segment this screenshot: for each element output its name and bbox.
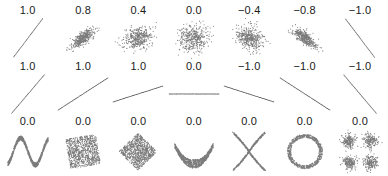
correlation-label: −1.0 <box>238 60 261 73</box>
scatter-plot-cloud-elliptical <box>280 17 330 59</box>
scatter-plot-line <box>1 73 55 115</box>
scatter-panel-r1-c6: −0.8 <box>277 4 332 59</box>
scatter-panel-r3-c4: 0.0 <box>166 115 221 175</box>
correlation-label: 0.8 <box>75 4 91 17</box>
data-points <box>232 132 266 171</box>
scatter-panel-r2-c1: 1.0 <box>0 60 55 115</box>
data-points <box>66 135 101 169</box>
panel-row-3: 0.00.00.00.00.00.00.0 <box>0 115 388 175</box>
scatter-plot-line <box>111 73 165 115</box>
scatter-plot-square-rotated-45 <box>114 128 162 175</box>
scatter-panel-r1-c4: 0.0 <box>166 4 221 59</box>
data-points <box>11 74 45 113</box>
correlation-label: −1.0 <box>349 60 372 73</box>
scatter-plot-cloud-circular <box>169 17 219 59</box>
panel-row-2: 1.01.01.00.0−1.0−1.0−1.0 <box>0 60 388 115</box>
correlation-label: 0.0 <box>297 115 313 128</box>
scatter-panel-r1-c1: 1.0 <box>0 4 55 59</box>
correlation-label: 1.0 <box>20 4 36 17</box>
scatter-panel-r2-c3: 1.0 <box>111 60 166 115</box>
data-points <box>287 24 322 52</box>
scatter-panel-r2-c6: −1.0 <box>277 60 332 115</box>
correlation-label: 1.0 <box>20 60 36 73</box>
correlation-label: 0.4 <box>131 4 147 17</box>
scatter-plot-line <box>278 73 332 115</box>
scatter-plot-crescent-u <box>170 128 218 175</box>
scatter-plot-line-negative-steep <box>335 17 385 59</box>
scatter-plot-line <box>333 73 387 115</box>
correlation-label: −0.4 <box>238 4 261 17</box>
scatter-plot-four-clusters <box>336 128 384 175</box>
correlation-label: 0.0 <box>186 60 202 73</box>
data-points <box>224 86 275 103</box>
data-points <box>7 135 49 167</box>
scatter-panel-r2-c7: −1.0 <box>332 60 387 115</box>
correlation-label: 0.0 <box>186 4 202 17</box>
scatter-panel-r1-c3: 0.4 <box>111 4 166 59</box>
correlation-label: −1.0 <box>349 4 372 17</box>
scatter-plot-line <box>56 73 110 115</box>
scatter-panel-r1-c7: −1.0 <box>332 4 387 59</box>
scatter-plot-cloud-elliptical <box>58 17 108 59</box>
data-points <box>168 93 219 94</box>
data-points <box>13 18 43 57</box>
scatter-plot-line <box>222 73 276 115</box>
scatter-panel-r2-c2: 1.0 <box>55 60 110 115</box>
scatter-plot-ring <box>281 128 329 175</box>
correlation-label: 0.0 <box>75 115 91 128</box>
correlation-label: 1.0 <box>75 60 91 73</box>
data-points <box>175 20 214 58</box>
scatter-plot-square-rotated-10 <box>59 128 107 175</box>
scatter-plot-line-positive-steep <box>3 17 53 59</box>
correlation-figure: 1.00.80.40.0−0.4−0.8−1.0 1.01.01.00.0−1.… <box>0 0 388 176</box>
scatter-panel-r3-c5: 0.0 <box>222 115 277 175</box>
scatter-panel-r3-c3: 0.0 <box>111 115 166 175</box>
scatter-plot-cloud-elliptical <box>224 17 274 59</box>
scatter-panel-r2-c4: 0.0 <box>166 60 221 115</box>
scatter-plot-sine-w <box>4 128 52 175</box>
data-points <box>279 77 330 110</box>
scatter-panel-r1-c5: −0.4 <box>222 4 277 59</box>
panel-row-1: 1.00.80.40.0−0.4−0.8−1.0 <box>0 4 388 59</box>
data-points <box>120 133 157 170</box>
scatter-plot-cross-x <box>225 128 273 175</box>
data-points <box>174 143 214 169</box>
scatter-panel-r3-c1: 0.0 <box>0 115 55 175</box>
data-points <box>115 22 157 54</box>
data-points <box>345 19 375 58</box>
scatter-panel-r2-c5: −1.0 <box>222 60 277 115</box>
data-points <box>339 129 383 173</box>
scatter-panel-r1-c2: 0.8 <box>55 4 110 59</box>
correlation-label: 0.0 <box>131 115 147 128</box>
correlation-label: 0.0 <box>241 115 257 128</box>
data-points <box>233 18 271 55</box>
data-points <box>343 74 376 113</box>
data-points <box>66 25 100 52</box>
data-points <box>113 86 164 103</box>
scatter-plot-cloud-elliptical <box>113 17 163 59</box>
correlation-label: 1.0 <box>131 60 147 73</box>
data-points <box>287 134 323 169</box>
scatter-panel-r3-c6: 0.0 <box>277 115 332 175</box>
correlation-label: 0.0 <box>20 115 36 128</box>
correlation-label: −1.0 <box>293 60 316 73</box>
scatter-panel-r3-c7: 0.0 <box>332 115 387 175</box>
data-points <box>58 77 109 110</box>
correlation-label: −0.8 <box>293 4 316 17</box>
scatter-plot-line-flat <box>167 73 221 115</box>
correlation-label: 0.0 <box>352 115 368 128</box>
correlation-label: 0.0 <box>186 115 202 128</box>
scatter-panel-r3-c2: 0.0 <box>55 115 110 175</box>
